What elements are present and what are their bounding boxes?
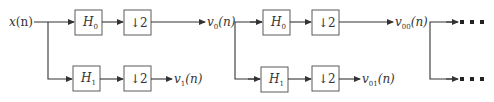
stage1-lower-downsampler-block: ↓2: [124, 66, 151, 91]
stage1-branch-wire: [48, 22, 72, 79]
continuation-dots-lower: [460, 77, 484, 81]
svg-text:↓2: ↓2: [318, 72, 336, 86]
input-label: x(n): [9, 15, 33, 29]
svg-text:↓2: ↓2: [130, 16, 148, 30]
output-v1-label: v1(n): [174, 72, 203, 88]
output-v01-label: v01(n): [362, 72, 395, 88]
output-v00-label: v00(n): [395, 15, 428, 31]
stage2-lower-filter-block: H1: [261, 67, 288, 92]
output-v0-label: v0(n): [207, 15, 236, 31]
stage2-upper-filter-block: H0: [263, 10, 290, 35]
filter-bank-diagram: x(n) H0 ↓2 v0(n) H1 ↓2 v1(n) H0 ↓2 v00(n…: [0, 0, 494, 102]
stage2-upper-downsampler-block: ↓2: [312, 10, 339, 35]
svg-text:↓2: ↓2: [130, 72, 148, 86]
svg-text:↓2: ↓2: [318, 16, 336, 30]
continuation-dots-upper: [460, 20, 484, 24]
stage1-lower-filter-block: H1: [73, 66, 100, 91]
stage1-upper-downsampler-block: ↓2: [124, 10, 151, 35]
stage2-branch-wire: [235, 22, 262, 79]
stage1-upper-filter-block: H0: [75, 10, 102, 35]
stage3-branch-wire: [430, 22, 456, 79]
stage2-lower-downsampler-block: ↓2: [312, 66, 339, 91]
